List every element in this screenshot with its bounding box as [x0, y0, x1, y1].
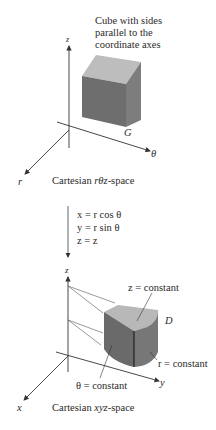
equation-y: y = r sin θ [77, 222, 119, 233]
cube-annotation-line-2: parallel to the [95, 27, 153, 38]
r-constant-label: r = constant [158, 358, 208, 369]
z-axis-label-top: z [66, 34, 69, 45]
cube-annotation-line-1: Cube with sides [95, 15, 162, 26]
region-D [100, 293, 158, 378]
y-axis-label: y [160, 377, 165, 388]
cube-G [82, 55, 141, 127]
region-D-label: D [165, 315, 173, 326]
equation-z: z = z [77, 235, 98, 246]
z-axis-label-bottom: z [65, 265, 69, 276]
theta-axis-label: θ [151, 148, 156, 159]
top-caption: Cartesian rθz-space [52, 175, 134, 186]
region-G-label: G [124, 127, 132, 138]
bottom-caption: Cartesian xyz-space [52, 402, 135, 413]
x-axis [24, 356, 68, 400]
theta-axis [57, 122, 150, 151]
r-axis [25, 130, 69, 174]
equation-x: x = r cos θ [77, 209, 121, 220]
x-axis-label: x [17, 402, 22, 413]
theta-constant-label: θ = constant [76, 380, 127, 391]
r-axis-label: r [18, 176, 22, 187]
z-constant-label: z = constant [128, 282, 179, 293]
cube-annotation-line-3: coordinate axes [95, 39, 161, 50]
